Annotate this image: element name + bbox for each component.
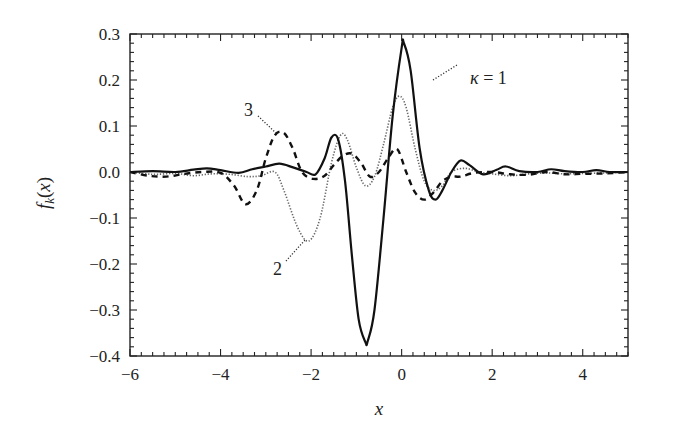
tick-labels: −6−4−20240.30.20.10.0−0.1−0.2−0.3−0.4 [89,25,587,384]
x-tick-label: 2 [488,365,497,384]
y-axis-label: fk(x) [33,177,57,209]
y-tick-label: −0.1 [89,209,120,228]
x-tick-label: 4 [578,365,587,384]
y-tick-label: −0.4 [89,347,120,366]
annotation-2-leader [286,240,305,261]
x-tick-label: 0 [397,365,406,384]
x-tick-label: −4 [211,365,230,384]
plot-curves [130,39,628,345]
y-tick-label: 0.1 [99,117,120,136]
curve-1 [130,39,628,345]
annotation-2: 2 [273,259,282,279]
x-axis-label: x [374,398,384,419]
y-tick-label: 0.0 [99,163,120,182]
x-tick-label: −6 [121,365,139,384]
annotation-kappa1: κ = 1 [470,68,507,88]
y-tick-label: 0.3 [99,25,120,44]
line-chart: −6−4−20240.30.20.10.0−0.1−0.2−0.3−0.4 x … [0,0,675,429]
annotation-3-leader [258,116,276,133]
svg-text:fk(x): fk(x) [33,177,57,209]
annotation-3: 3 [244,100,253,120]
y-tick-label: −0.3 [89,301,120,320]
y-tick-label: −0.2 [89,255,120,274]
curve-annotations: κ = 1 2 3 [244,65,507,279]
x-tick-label: −2 [302,365,320,384]
y-tick-label: 0.2 [99,71,120,90]
plot-frame [130,34,628,356]
annotation-kappa1-leader [433,65,457,80]
axis-ticks [130,34,628,356]
